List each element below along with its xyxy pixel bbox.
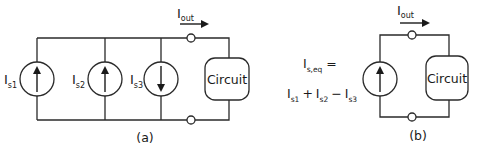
- bottom-right-wire: [195, 100, 229, 120]
- current-source-is3: [144, 38, 178, 120]
- is2-label: Is2: [72, 72, 85, 90]
- iout-label-b: Iout: [397, 3, 414, 20]
- current-source-is-eq: [363, 62, 397, 96]
- is1-label: Is1: [4, 72, 17, 90]
- top-right-wire-b: [416, 35, 449, 56]
- caption-b: (b): [409, 128, 427, 143]
- terminal-top: [187, 34, 195, 42]
- equation-lhs: Is,eq=: [303, 56, 337, 74]
- terminal-top-b: [408, 31, 416, 39]
- equation-rhs: Is1+Is2−Is3: [287, 86, 357, 104]
- equivalent-source-equation: Is,eq= Is1+Is2−Is3: [287, 56, 357, 104]
- terminal-bottom: [187, 116, 195, 124]
- is3-label: Is3: [130, 72, 143, 90]
- current-source-is1: [20, 38, 54, 120]
- caption-a: (a): [136, 130, 153, 145]
- bottom-right-wire-b: [416, 100, 449, 117]
- current-source-is2: [88, 38, 122, 120]
- figure-a: Circuit Is1 Is2 Is3 Iout (a): [4, 6, 249, 145]
- terminal-bottom-b: [408, 113, 416, 121]
- bottom-left-wire-b: [380, 96, 408, 117]
- top-right-wire: [195, 38, 229, 58]
- iout-label-a: Iout: [177, 6, 194, 23]
- circuit-label-b: Circuit: [427, 71, 467, 86]
- top-left-wire-b: [380, 35, 408, 62]
- circuit-diagram: Circuit Is1 Is2 Is3 Iout (a) Is,eq= Is1+…: [0, 0, 477, 151]
- circuit-label: Circuit: [207, 72, 247, 87]
- figure-b: Circuit Iout (b): [363, 3, 468, 143]
